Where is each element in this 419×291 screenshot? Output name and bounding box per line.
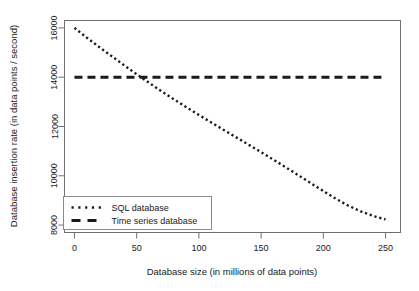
y-tick-label: 8000 bbox=[50, 215, 60, 235]
chart-background bbox=[0, 0, 419, 291]
y-tick-label: 10000 bbox=[50, 163, 60, 188]
legend-label-sql-database: SQL database bbox=[112, 203, 169, 213]
x-tick-label: 100 bbox=[191, 243, 206, 253]
legend-label-time-series-database: Time series database bbox=[112, 216, 198, 226]
chart-legend[interactable]: SQL databaseTime series database bbox=[64, 197, 212, 230]
y-tick-label: 12000 bbox=[50, 114, 60, 139]
y-tick-label: 16000 bbox=[50, 15, 60, 40]
line-chart: 800010000120001400016000 050100150200250… bbox=[0, 0, 419, 291]
x-tick-label: 150 bbox=[254, 243, 269, 253]
x-axis-title: Database size (in millions of data point… bbox=[147, 266, 318, 277]
x-tick-label: 0 bbox=[72, 243, 77, 253]
chart-figure: 800010000120001400016000 050100150200250… bbox=[0, 0, 419, 291]
y-axis-title: Database insertion rate (in data points … bbox=[8, 25, 19, 227]
x-tick-label: 250 bbox=[378, 243, 393, 253]
y-tick-label: 14000 bbox=[50, 65, 60, 90]
x-tick-label: 50 bbox=[132, 243, 142, 253]
x-tick-label: 200 bbox=[316, 243, 331, 253]
